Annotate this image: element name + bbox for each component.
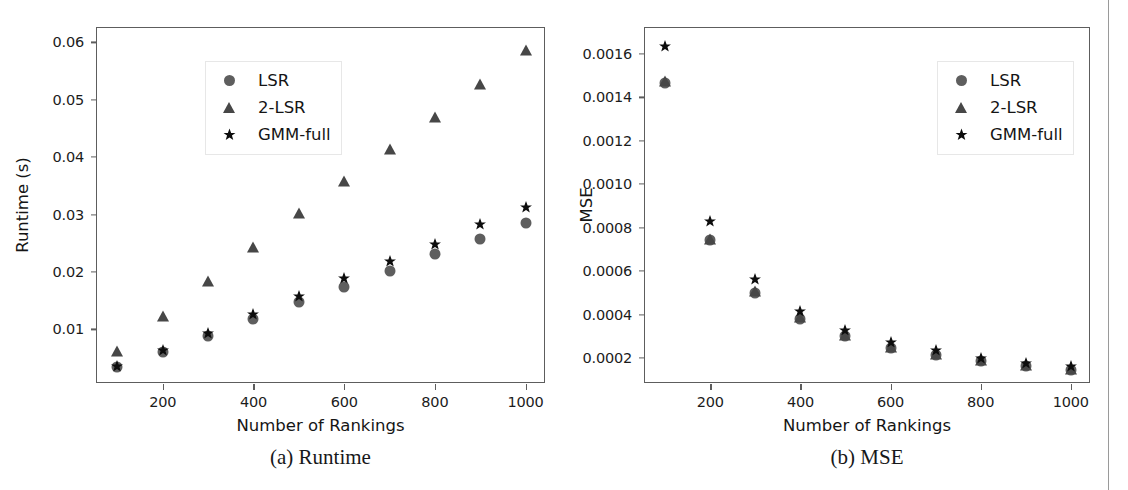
- y-tick-label: 0.0008: [582, 220, 632, 236]
- star-marker-icon: [111, 360, 124, 373]
- y-axis-title-mse: MSE: [577, 187, 596, 222]
- data-point: [111, 346, 123, 357]
- y-tick-mark: [91, 157, 97, 158]
- data-point: [520, 44, 532, 55]
- star-marker-icon: [202, 326, 215, 339]
- legend-runtime: LSR 2-LSR GMM-full: [205, 61, 342, 155]
- data-point: [659, 76, 671, 87]
- star-marker-icon: [338, 272, 351, 285]
- data-point: [794, 304, 807, 317]
- triangle-marker-icon: [214, 102, 244, 113]
- y-tick-mark: [91, 214, 97, 215]
- x-tick-label: 400: [240, 394, 267, 410]
- y-tick-mark: [639, 97, 645, 98]
- x-tick-mark: [163, 384, 164, 390]
- x-tick-label: 600: [877, 394, 904, 410]
- triangle-marker-icon: [659, 76, 671, 87]
- data-point: [474, 218, 487, 231]
- legend-mse: LSR 2-LSR GMM-full: [937, 61, 1074, 155]
- star-marker-icon: [749, 273, 762, 286]
- triangle-marker-icon: [202, 275, 214, 286]
- circle-marker-icon: [946, 75, 976, 86]
- y-tick-label: 0.04: [53, 149, 85, 165]
- triangle-marker-icon: [704, 233, 716, 244]
- plot-frame-mse: 0.00020.00040.00060.00080.00100.00120.00…: [644, 27, 1090, 383]
- data-point: [247, 307, 260, 320]
- data-point: [474, 78, 486, 89]
- x-tick-mark: [710, 384, 711, 390]
- y-tick-mark: [91, 329, 97, 330]
- data-point: [247, 241, 259, 252]
- subcaption-mse: (b) MSE: [831, 445, 904, 470]
- x-tick-mark: [891, 384, 892, 390]
- x-axis-title-mse: Number of Rankings: [783, 416, 951, 435]
- y-tick-label: 0.0004: [582, 307, 632, 323]
- triangle-marker-icon: [429, 112, 441, 123]
- data-point: [156, 344, 169, 357]
- star-marker-icon: [704, 214, 717, 227]
- triangle-marker-icon: [338, 175, 350, 186]
- data-point: [929, 344, 942, 357]
- data-point: [202, 275, 214, 286]
- x-tick-mark: [253, 384, 254, 390]
- star-marker-icon: [214, 128, 244, 141]
- data-point: [519, 200, 532, 213]
- x-tick-label: 1000: [1053, 394, 1089, 410]
- y-tick-mark: [639, 140, 645, 141]
- star-marker-icon: [156, 344, 169, 357]
- y-tick-mark: [91, 42, 97, 43]
- legend-label-lsr: LSR: [258, 71, 289, 90]
- data-point: [884, 335, 897, 348]
- data-point: [338, 175, 350, 186]
- legend-item-gmmfull: GMM-full: [946, 121, 1063, 148]
- data-point: [202, 326, 215, 339]
- legend-label-2lsr: 2-LSR: [990, 98, 1038, 117]
- figure-container: Runtime (s) 0.010.020.030.040.050.062004…: [0, 0, 1128, 490]
- x-tick-mark: [1071, 384, 1072, 390]
- data-point: [974, 351, 987, 364]
- legend-item-2lsr: 2-LSR: [214, 94, 331, 121]
- star-marker-icon: [929, 344, 942, 357]
- data-point: [293, 208, 305, 219]
- legend-item-lsr: LSR: [946, 67, 1063, 94]
- y-tick-mark: [639, 314, 645, 315]
- star-marker-icon: [1064, 360, 1077, 373]
- legend-label-gmmfull: GMM-full: [258, 125, 331, 144]
- x-tick-label: 600: [331, 394, 358, 410]
- triangle-marker-icon: [749, 286, 761, 297]
- triangle-marker-icon: [157, 310, 169, 321]
- data-point: [839, 324, 852, 337]
- y-tick-label: 0.0002: [582, 350, 632, 366]
- subcaption-runtime: (a) Runtime: [270, 445, 371, 470]
- data-point: [428, 238, 441, 251]
- y-tick-label: 0.03: [53, 207, 85, 223]
- legend-label-lsr: LSR: [990, 71, 1021, 90]
- triangle-marker-icon: [111, 346, 123, 357]
- data-point: [384, 144, 396, 155]
- y-tick-label: 0.01: [53, 321, 85, 337]
- star-marker-icon: [247, 307, 260, 320]
- triangle-marker-icon: [520, 44, 532, 55]
- data-point: [1064, 360, 1077, 373]
- star-marker-icon: [519, 200, 532, 213]
- star-marker-icon: [659, 40, 672, 53]
- y-tick-mark: [91, 271, 97, 272]
- x-axis-title-runtime: Number of Rankings: [236, 416, 404, 435]
- triangle-marker-icon: [946, 102, 976, 113]
- data-point: [429, 112, 441, 123]
- star-marker-icon: [884, 335, 897, 348]
- x-tick-mark: [526, 384, 527, 390]
- y-tick-label: 0.0014: [582, 89, 632, 105]
- y-tick-mark: [91, 99, 97, 100]
- y-tick-label: 0.0012: [582, 133, 632, 149]
- data-point: [749, 286, 761, 297]
- star-marker-icon: [1019, 357, 1032, 370]
- legend-item-lsr: LSR: [214, 67, 331, 94]
- star-marker-icon: [474, 218, 487, 231]
- panel-mse: MSE 0.00020.00040.00060.00080.00100.0012…: [564, 0, 1128, 490]
- x-tick-label: 200: [697, 394, 724, 410]
- x-tick-mark: [800, 384, 801, 390]
- y-tick-mark: [639, 357, 645, 358]
- y-tick-label: 0.02: [53, 264, 85, 280]
- data-point: [704, 233, 716, 244]
